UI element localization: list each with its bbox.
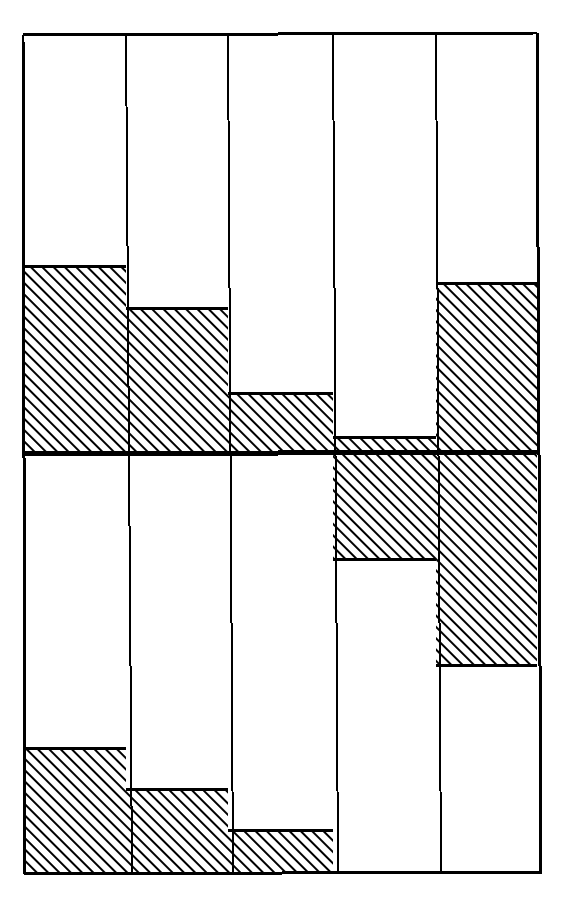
- lower-bar-1: [23, 748, 126, 874]
- lower-bar-5: [436, 454, 537, 665]
- figure-root: Two-register hatched bar diagram A recta…: [0, 0, 570, 917]
- upper-bar-1: [23, 266, 126, 454]
- lower-bar-3: [228, 830, 333, 874]
- upper-bar-2: [126, 308, 228, 454]
- lower-bar-4: [333, 454, 436, 559]
- frame-top: [23, 33, 537, 35]
- lower-bar-2: [126, 789, 228, 874]
- frame-bottom: [24, 872, 541, 874]
- upper-bar-5: [436, 283, 537, 454]
- hatched-bar-diagram: Two-register hatched bar diagram A recta…: [0, 0, 570, 917]
- register-divider: [23, 452, 539, 454]
- upper-bar-3: [228, 393, 333, 454]
